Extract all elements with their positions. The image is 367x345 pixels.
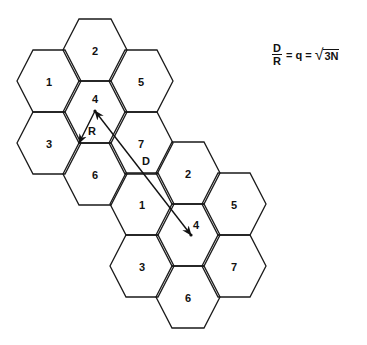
hexagon-cells <box>17 19 266 328</box>
cell-label: 4 <box>92 93 99 105</box>
fraction-denominator: R <box>273 55 281 67</box>
cell-label: 7 <box>138 138 144 150</box>
radius-label: R <box>88 125 96 137</box>
cell-label: 2 <box>92 45 98 57</box>
distance-arrow: D <box>95 111 191 235</box>
cell-label: 6 <box>185 292 191 304</box>
distance-label: D <box>142 155 150 167</box>
reuse-ratio-formula: D R = q = √ 3N <box>272 42 339 67</box>
cell-center-dot-cluster-2 <box>189 233 192 236</box>
cell-label: 5 <box>231 199 237 211</box>
cell-label: 2 <box>185 168 191 180</box>
cell-label: 7 <box>231 261 237 273</box>
fraction-numerator: D <box>272 42 282 55</box>
hex-cell-cluster-2-4 <box>156 204 220 266</box>
cell-label: 3 <box>46 138 52 150</box>
square-root: √ 3N <box>315 48 340 62</box>
cell-label: 1 <box>46 76 52 88</box>
d-over-r-fraction: D R <box>272 42 282 67</box>
cell-label: 3 <box>139 261 145 273</box>
radicand: 3N <box>323 49 339 62</box>
cell-label: 4 <box>193 219 200 231</box>
cell-center-dot-cluster-1 <box>93 109 96 112</box>
cell-label: 6 <box>92 169 98 181</box>
cell-label: 5 <box>138 76 144 88</box>
radius-arrow: R <box>79 111 96 143</box>
formula-middle: = q = <box>286 49 312 61</box>
radical-sign-icon: √ <box>315 48 324 62</box>
cell-label: 1 <box>139 199 145 211</box>
